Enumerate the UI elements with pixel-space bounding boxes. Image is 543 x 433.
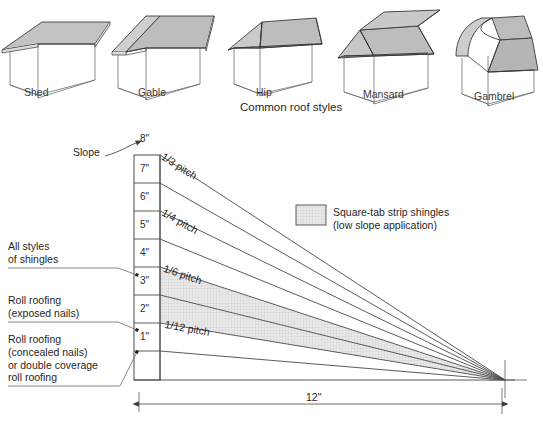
annotation-all-styles-of-shingles: All styles of shingles xyxy=(8,240,58,266)
run-dimension-label: 12" xyxy=(306,391,321,404)
roof-styles-and-slope-figure: Shed Gable Hip Mansard Gambrel Common ro… xyxy=(0,0,543,433)
rise-tick-1: 1" xyxy=(140,331,149,343)
roof-illustration-hip xyxy=(228,18,322,96)
annotation-roll-roofing-exposed-nails: Roll roofing (exposed nails) xyxy=(8,294,79,320)
rise-tick-5: 5" xyxy=(140,219,149,231)
legend-line-1: Square-tab strip shingles xyxy=(333,206,449,219)
roof-style-label-hip: Hip xyxy=(256,86,272,99)
roof-style-label-shed: Shed xyxy=(24,86,49,99)
rise-tick-8: 8" xyxy=(140,133,149,145)
roof-style-label-gambrel: Gambrel xyxy=(474,90,514,103)
legend-line-2: (low slope application) xyxy=(333,219,437,232)
slope-callout-arrow xyxy=(105,143,136,156)
legend-hatched-swatch xyxy=(296,205,326,225)
roof-style-label-gable: Gable xyxy=(138,86,166,99)
rise-scale-column xyxy=(134,155,160,380)
rise-tick-6: 6" xyxy=(140,191,149,203)
rise-tick-4: 4" xyxy=(140,247,149,259)
leader-all-styles xyxy=(8,268,137,275)
leader-roll-exposed xyxy=(8,322,137,330)
rise-tick-2: 2" xyxy=(140,303,149,315)
rise-tick-7: 7" xyxy=(140,163,149,175)
slope-label: Slope xyxy=(73,146,100,159)
rise-tick-3: 3" xyxy=(140,275,149,287)
roof-illustration-shed xyxy=(2,22,110,98)
slope-line-3 xyxy=(160,295,505,380)
annotation-roll-roofing-concealed-nails: Roll roofing (concealed nails) or double… xyxy=(8,333,98,384)
roof-styles-caption: Common roof styles xyxy=(240,100,342,114)
roof-style-label-mansard: Mansard xyxy=(363,88,404,101)
